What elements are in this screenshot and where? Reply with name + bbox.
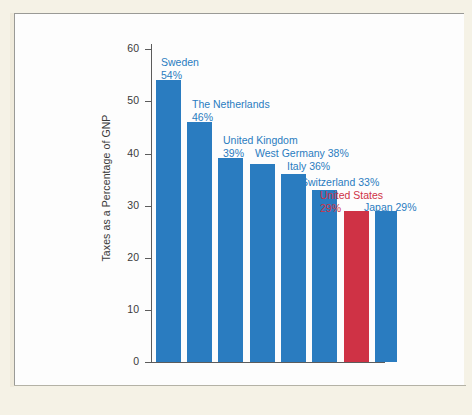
y-tick-60: 60 [113,49,139,50]
bar-label-the-netherlands: The Netherlands 46% [192,98,270,123]
y-tick-mark-30 [145,206,151,207]
bar-chart: Taxes as a Percentage of GNP 60 50 40 30… [0,0,472,415]
bar-the-netherlands[interactable] [187,122,212,362]
y-tick-10: 10 [113,310,139,311]
y-tick-mark-60 [145,49,151,50]
y-tick-0: 0 [113,362,139,363]
y-tick-mark-20 [145,258,151,259]
bar-label-switzerland: Switzerland 33% [301,176,379,189]
x-axis-line [151,362,385,363]
bar-label-italy: Italy 36% [287,160,330,173]
bar-label-sweden: Sweden 54% [161,56,199,81]
bar-sweden[interactable] [156,80,181,362]
y-axis-title: Taxes as a Percentage of GNP [100,58,112,318]
bar-west-germany[interactable] [250,164,275,362]
bar-united-kingdom[interactable] [218,158,243,362]
y-tick-mark-40 [145,154,151,155]
bar-united-states[interactable] [344,211,369,362]
y-tick-40: 40 [113,154,139,155]
y-tick-30: 30 [113,206,139,207]
y-tick-20: 20 [113,258,139,259]
y-tick-mark-10 [145,310,151,311]
bar-italy[interactable] [281,174,306,362]
y-axis-line [151,44,152,363]
bar-label-west-germany: West Germany 38% [255,147,349,160]
bar-japan[interactable] [375,211,397,362]
chart-page: Taxes as a Percentage of GNP 60 50 40 30… [0,0,472,415]
y-tick-50: 50 [113,101,139,102]
y-tick-mark-0 [145,362,151,363]
bar-switzerland[interactable] [312,190,337,362]
bar-label-japan: Japan 29% [364,201,417,214]
y-tick-mark-50 [145,101,151,102]
